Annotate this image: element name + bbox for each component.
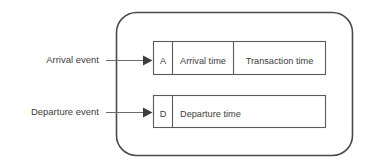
arrival-record: A Arrival time Transaction time [154, 42, 326, 75]
departure-event-label: Departure event [31, 106, 99, 117]
departure-arrowhead-icon [143, 108, 153, 118]
arrival-arrowhead-icon [143, 56, 153, 66]
diagram-canvas: A Arrival time Transaction time D Depart… [0, 0, 370, 168]
diagram-figure: A Arrival time Transaction time D Depart… [0, 0, 370, 168]
event-list-container [117, 13, 353, 156]
departure-event-annotation: Departure event [31, 106, 153, 117]
arrival-event-annotation: Arrival event [46, 54, 152, 65]
arrival-type-code: A [160, 56, 167, 66]
departure-record: D Departure time [154, 96, 326, 128]
arrival-time-label: Arrival time [180, 56, 226, 66]
transaction-time-label: Transaction time [246, 56, 314, 66]
departure-time-label: Departure time [180, 109, 241, 119]
arrival-event-label: Arrival event [46, 54, 99, 65]
departure-type-code: D [160, 109, 167, 119]
